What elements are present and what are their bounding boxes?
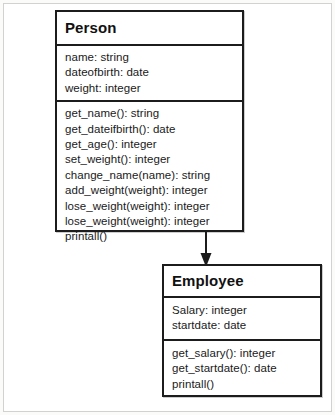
method-item: add_weight(weight): integer xyxy=(65,183,242,198)
method-item: get_startdate(): date xyxy=(172,361,320,376)
method-item: get_salary(): integer xyxy=(172,346,320,361)
method-item: lose_weight(weight): integer xyxy=(65,214,242,229)
diagram-canvas: Person name: string dateofbirth: date we… xyxy=(0,0,335,415)
attribute-item: startdate: date xyxy=(172,318,320,333)
method-item: get_age(): integer xyxy=(65,137,242,152)
method-item: printall() xyxy=(172,377,320,392)
method-item: lose_weight(weight): integer xyxy=(65,199,242,214)
attribute-item: Salary: integer xyxy=(172,303,320,318)
uml-class-person[interactable]: Person name: string dateofbirth: date we… xyxy=(55,10,244,232)
uml-class-employee[interactable]: Employee Salary: integer startdate: date… xyxy=(162,264,322,397)
method-item: get_dateifbirth(): date xyxy=(65,122,242,137)
methods-compartment-employee: get_salary(): integer get_startdate(): d… xyxy=(164,339,320,397)
attribute-item: dateofbirth: date xyxy=(65,65,242,80)
attribute-item: name: string xyxy=(65,50,242,65)
method-item: change_name(name): string xyxy=(65,168,242,183)
methods-compartment-person: get_name(): string get_dateifbirth(): da… xyxy=(57,100,242,249)
attributes-compartment-person: name: string dateofbirth: date weight: i… xyxy=(57,44,242,100)
method-item: get_name(): string xyxy=(65,106,242,121)
class-name-employee: Employee xyxy=(164,266,320,296)
method-item: set_weight(): integer xyxy=(65,152,242,167)
attributes-compartment-employee: Salary: integer startdate: date xyxy=(164,296,320,339)
generalization-arrow-icon xyxy=(196,230,216,268)
attribute-item: weight: integer xyxy=(65,81,242,96)
class-name-person: Person xyxy=(57,12,242,44)
